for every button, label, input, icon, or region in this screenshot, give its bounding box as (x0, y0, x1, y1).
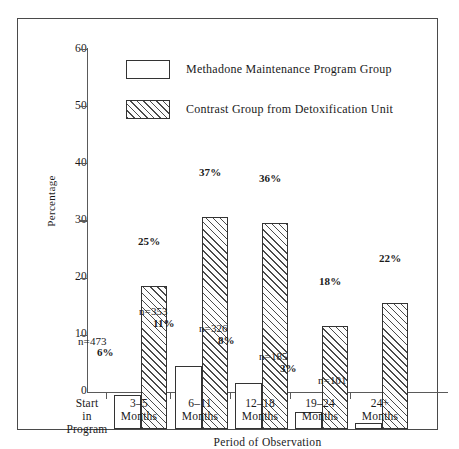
y-tick-mark-50 (80, 106, 87, 107)
bar-value-label-contrast-6-11-months: 37% (199, 166, 221, 178)
x-category-line-2: Months (107, 410, 171, 423)
bar-chart-figure: 60 50 40 30 20 10 0 Percentage (0, 0, 459, 449)
bar-value-label-contrast-19-24-months: 18% (319, 275, 341, 287)
y-axis-title: Percentage (45, 161, 57, 241)
x-category-line-3: Program (54, 423, 120, 436)
bar-methadone-24-plus-months (355, 423, 382, 429)
bar-n-label-6-11-months: n=353 (139, 305, 168, 317)
x-category-line-1: 6–11 (168, 397, 232, 410)
y-tick-0: 0 (18, 385, 87, 397)
y-tick-label-0: 0 (61, 385, 87, 397)
bar-value-label-contrast-24-plus-months: 22% (379, 252, 401, 264)
y-tick-mark-20 (80, 278, 87, 279)
bar-n-label-19-24-months: n=185 (259, 350, 288, 362)
x-category-line-2: Months (348, 410, 412, 423)
bar-n-label-24-plus-months: n=101 (318, 374, 347, 386)
x-category-line-1: 24+ (348, 397, 412, 410)
legend-label-methadone: Methadone Maintenance Program Group (186, 62, 392, 77)
bar-value-label-methadone-19-24-months: 3% (280, 362, 297, 374)
x-category-24-plus-months: 24+ Months (348, 397, 412, 423)
legend-swatch-white-icon (126, 60, 170, 79)
bar-value-label-contrast-12-18-months: 36% (259, 172, 281, 184)
y-tick-20: 20 (18, 271, 87, 283)
legend-label-contrast: Contrast Group from Detoxification Unit (186, 102, 393, 117)
y-tick-mark-30 (80, 220, 87, 221)
y-tick-mark-60 (80, 49, 87, 50)
x-category-line-2: Months (168, 410, 232, 423)
bar-value-label-methadone-3-5-months: 6% (97, 346, 114, 358)
x-category-19-24-months: 19–24 Months (288, 397, 352, 423)
y-tick-60: 60 (18, 43, 87, 55)
x-category-3-5-months: 3–5 Months (107, 397, 171, 423)
bar-value-label-contrast-3-5-months: 25% (138, 235, 160, 247)
x-category-line-1: 3–5 (107, 397, 171, 410)
x-axis-title: Period of Observation (87, 436, 448, 448)
y-tick-10: 10 (18, 328, 87, 340)
x-category-line-1: 12–18 (228, 397, 292, 410)
y-tick-mark-40 (80, 163, 87, 164)
x-category-line-2: Months (228, 410, 292, 423)
x-category-12-18-months: 12–18 Months (228, 397, 292, 423)
x-category-line-1: 19–24 (288, 397, 352, 410)
y-tick-50: 50 (18, 100, 87, 112)
bar-value-label-methadone-12-18-months: 8% (218, 334, 235, 346)
x-category-line-2: Months (288, 410, 352, 423)
bar-n-label-12-18-months: n=326 (199, 322, 228, 334)
x-category-6-11-months: 6–11 Months (168, 397, 232, 423)
chart-frame: 60 50 40 30 20 10 0 Percentage (17, 18, 438, 430)
legend-swatch-hatched-icon (126, 100, 170, 119)
bar-value-label-methadone-6-11-months: 11% (153, 317, 175, 329)
